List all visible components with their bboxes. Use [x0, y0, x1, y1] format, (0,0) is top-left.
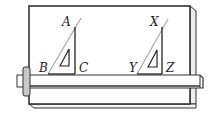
- ruler-head-knob: [23, 67, 30, 96]
- label-x: X: [149, 15, 159, 29]
- figure-canvas: A B C X Y Z: [0, 0, 214, 116]
- label-c: C: [79, 61, 88, 75]
- label-y: Y: [129, 61, 138, 75]
- label-b: B: [38, 61, 48, 75]
- label-a: A: [61, 15, 71, 29]
- drawing-board: [29, 6, 196, 108]
- label-z: Z: [165, 61, 175, 75]
